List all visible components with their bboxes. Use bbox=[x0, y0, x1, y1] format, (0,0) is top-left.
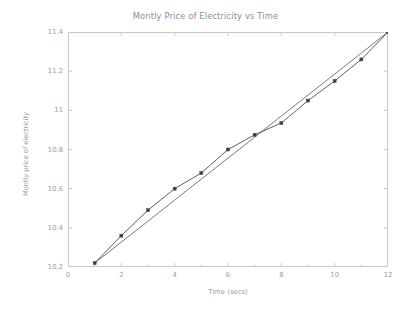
y-axis-tick-labels: 10.210.410.610.81111.211.4 bbox=[36, 32, 63, 267]
x-tick-label: 6 bbox=[226, 271, 230, 279]
chart-title: Montly Price of Electricity vs Time bbox=[0, 11, 411, 21]
y-tick-label: 10.8 bbox=[48, 146, 63, 154]
x-tick-label: 2 bbox=[119, 271, 123, 279]
x-tick-label: 10 bbox=[330, 271, 339, 279]
data-line-series bbox=[95, 32, 388, 263]
y-tick-label: 10.2 bbox=[48, 263, 63, 271]
y-tick-label: 10.6 bbox=[48, 185, 63, 193]
x-axis-label: Time (secs) bbox=[68, 288, 388, 296]
x-tick-label: 0 bbox=[66, 271, 70, 279]
plot-canvas bbox=[68, 32, 388, 267]
x-tick-label: 8 bbox=[279, 271, 283, 279]
y-axis-label: Montly price of electricity bbox=[22, 84, 30, 224]
x-tick-label: 12 bbox=[384, 271, 393, 279]
y-tick-label: 10.4 bbox=[48, 224, 63, 232]
trend-line-series bbox=[95, 32, 388, 263]
chart-figure: Montly Price of Electricity vs Time Mont… bbox=[0, 0, 411, 310]
x-axis-tick-labels: 024681012 bbox=[68, 271, 388, 285]
x-tick-label: 4 bbox=[172, 271, 176, 279]
plot-area bbox=[68, 32, 388, 267]
axis-ticks bbox=[68, 32, 388, 267]
axis-frame bbox=[69, 33, 388, 267]
y-tick-label: 11.4 bbox=[48, 28, 63, 36]
y-tick-label: 11.2 bbox=[48, 67, 63, 75]
data-point-markers bbox=[93, 32, 388, 265]
y-tick-label: 11 bbox=[54, 106, 63, 114]
